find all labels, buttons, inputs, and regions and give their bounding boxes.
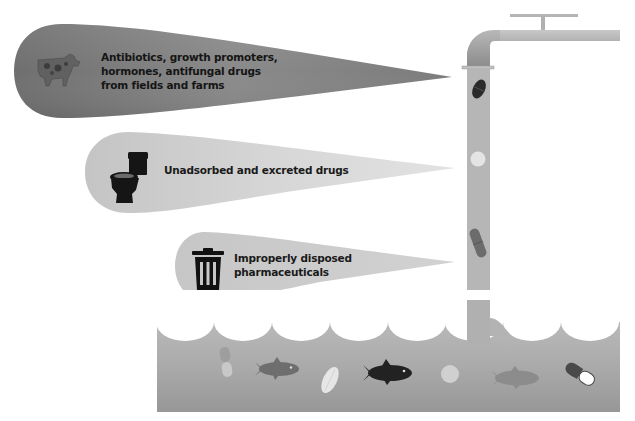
label-line: pharmaceuticals xyxy=(234,265,352,279)
trash-can-icon xyxy=(192,248,224,290)
label-line: hormones, antifungal drugs xyxy=(101,64,278,78)
source-label-toilet: Unadsorbed and excreted drugs xyxy=(164,163,349,177)
label-line: from fields and farms xyxy=(101,78,278,92)
source-label-trash: Improperly disposed pharmaceuticals xyxy=(234,251,352,279)
pharmaceutical-pollution-diagram xyxy=(0,0,635,421)
round-tablet xyxy=(441,365,459,383)
label-line: Unadsorbed and excreted drugs xyxy=(164,163,349,177)
source-label-farms: Antibiotics, growth promoters, hormones,… xyxy=(101,50,278,92)
label-line: Antibiotics, growth promoters, xyxy=(101,50,278,64)
white-round-tablet xyxy=(471,152,486,167)
label-line: Improperly disposed xyxy=(234,251,352,265)
